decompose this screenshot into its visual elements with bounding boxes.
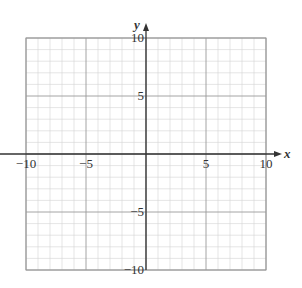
y-tick-label: −5: [130, 204, 144, 219]
coordinate-plane: −10−5510−10−5510 x y: [0, 0, 302, 288]
x-axis-label: x: [283, 146, 291, 161]
axes: [0, 23, 282, 270]
x-tick-label: −5: [79, 156, 93, 171]
y-axis-label: y: [132, 17, 140, 32]
x-axis-arrow-icon: [274, 151, 282, 157]
x-tick-label: −10: [16, 156, 36, 171]
y-tick-label: 10: [131, 30, 144, 45]
y-tick-label: −10: [124, 262, 144, 277]
x-tick-label: 10: [260, 156, 273, 171]
y-tick-label: 5: [138, 88, 145, 103]
x-tick-label: 5: [203, 156, 210, 171]
